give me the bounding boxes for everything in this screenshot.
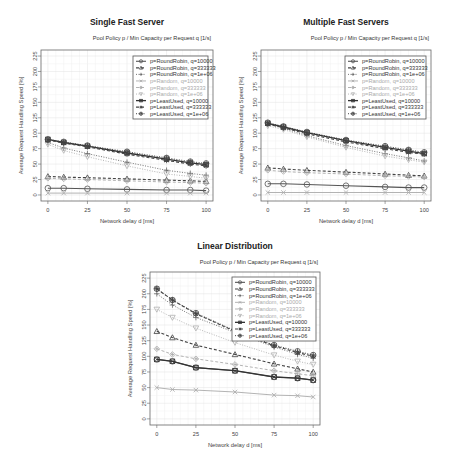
svg-text:p=RoundRobin, q=333333: p=RoundRobin, q=333333 — [249, 286, 315, 292]
svg-text:0: 0 — [46, 207, 49, 213]
svg-text:100: 100 — [141, 352, 147, 361]
svg-text:0: 0 — [155, 431, 158, 437]
x-axis: 0255075100Network delay d [ms] — [46, 201, 210, 224]
svg-text:p=Random, q=10000: p=Random, q=10000 — [249, 299, 302, 305]
svg-text:0: 0 — [32, 193, 38, 196]
chart-title: Linear Distribution — [197, 241, 273, 251]
svg-text:100: 100 — [420, 207, 429, 213]
svg-text:75: 75 — [382, 207, 388, 213]
y-axis: 0255075100125150175200225Average Request… — [18, 51, 41, 196]
svg-text:150: 150 — [141, 320, 147, 329]
svg-text:200: 200 — [32, 67, 38, 76]
svg-text:50: 50 — [32, 161, 38, 167]
svg-text:225: 225 — [32, 51, 38, 60]
svg-text:200: 200 — [141, 289, 147, 298]
svg-text:p=LeastUsed, q=333333: p=LeastUsed, q=333333 — [362, 104, 423, 110]
svg-text:150: 150 — [32, 98, 38, 107]
svg-text:p=LeastUsed, q=10000: p=LeastUsed, q=10000 — [362, 98, 420, 104]
svg-text:75: 75 — [141, 369, 147, 375]
svg-text:p=RoundRobin, q=1e+06: p=RoundRobin, q=1e+06 — [150, 71, 213, 77]
legend: p=RoundRobin, q=10000p=RoundRobin, q=333… — [133, 56, 216, 119]
x-axis-label: Network delay d [ms] — [208, 442, 263, 448]
svg-text:p=RoundRobin, q=333333: p=RoundRobin, q=333333 — [362, 65, 428, 71]
legend: p=RoundRobin, q=10000p=RoundRobin, q=333… — [345, 56, 428, 119]
svg-text:p=RoundRobin, q=10000: p=RoundRobin, q=10000 — [249, 279, 312, 285]
svg-text:25: 25 — [193, 431, 199, 437]
svg-text:p=LeastUsed, q=333333: p=LeastUsed, q=333333 — [249, 326, 310, 332]
x-axis: 0255075100Network delay d [ms] — [266, 201, 429, 224]
svg-text:100: 100 — [32, 129, 38, 138]
y-axis: 0255075100125150175200225Average Request… — [238, 51, 261, 196]
svg-text:175: 175 — [32, 82, 38, 91]
svg-text:100: 100 — [201, 207, 210, 213]
chart-panel-3: Linear DistributionPool Policy p / Min C… — [127, 241, 320, 448]
svg-text:75: 75 — [271, 431, 277, 437]
svg-text:175: 175 — [252, 82, 258, 91]
y-axis: 0255075100125150175200225Average Request… — [127, 273, 150, 420]
svg-text:25: 25 — [84, 207, 90, 213]
svg-text:75: 75 — [252, 146, 258, 152]
svg-text:25: 25 — [32, 176, 38, 182]
x-axis-label: Network delay d [ms] — [319, 218, 374, 224]
svg-text:125: 125 — [32, 113, 38, 122]
svg-text:75: 75 — [163, 207, 169, 213]
svg-text:p=RoundRobin, q=10000: p=RoundRobin, q=10000 — [362, 58, 425, 64]
svg-text:175: 175 — [141, 305, 147, 314]
svg-text:p=Random, q=333333: p=Random, q=333333 — [150, 85, 206, 91]
x-axis: 0255075100Network delay d [ms] — [155, 425, 318, 448]
svg-text:25: 25 — [252, 176, 258, 182]
svg-text:200: 200 — [252, 67, 258, 76]
svg-text:225: 225 — [141, 273, 147, 282]
svg-text:0: 0 — [141, 417, 147, 420]
svg-text:p=LeastUsed, q=333333: p=LeastUsed, q=333333 — [150, 104, 211, 110]
legend-title: Pool Policy p / Min Capacity per Request… — [311, 35, 430, 41]
svg-text:100: 100 — [309, 431, 318, 437]
svg-text:p=RoundRobin, q=10000: p=RoundRobin, q=10000 — [150, 58, 213, 64]
svg-text:50: 50 — [343, 207, 349, 213]
svg-text:p=RoundRobin, q=333333: p=RoundRobin, q=333333 — [150, 65, 216, 71]
chart-title: Multiple Fast Servers — [303, 17, 389, 27]
svg-text:p=Random, q=333333: p=Random, q=333333 — [362, 85, 418, 91]
svg-text:0: 0 — [252, 193, 258, 196]
svg-text:50: 50 — [124, 207, 130, 213]
svg-text:125: 125 — [252, 113, 258, 122]
svg-text:75: 75 — [32, 146, 38, 152]
svg-text:p=LeastUsed, q=1e+06: p=LeastUsed, q=1e+06 — [249, 333, 307, 339]
legend-title: Pool Policy p / Min Capacity per Request… — [200, 259, 319, 265]
y-axis-label: Average Request Handling Speed [%] — [18, 76, 24, 174]
svg-text:p=Random, q=1e+06: p=Random, q=1e+06 — [249, 313, 302, 319]
svg-text:225: 225 — [252, 51, 258, 60]
svg-text:50: 50 — [252, 161, 258, 167]
svg-text:p=Random, q=1e+06: p=Random, q=1e+06 — [362, 91, 415, 97]
svg-text:p=Random, q=1e+06: p=Random, q=1e+06 — [150, 91, 203, 97]
svg-text:125: 125 — [141, 336, 147, 345]
svg-text:p=LeastUsed, q=10000: p=LeastUsed, q=10000 — [150, 98, 208, 104]
svg-text:25: 25 — [141, 400, 147, 406]
chart-title: Single Fast Server — [90, 17, 165, 27]
svg-text:0: 0 — [266, 207, 269, 213]
svg-text:p=Random, q=10000: p=Random, q=10000 — [362, 78, 415, 84]
svg-text:p=LeastUsed, q=1e+06: p=LeastUsed, q=1e+06 — [150, 111, 208, 117]
legend: p=RoundRobin, q=10000p=RoundRobin, q=333… — [232, 277, 316, 341]
chart-panel-1: Single Fast ServerPool Policy p / Min Ca… — [18, 17, 216, 224]
x-axis-label: Network delay d [ms] — [100, 218, 155, 224]
svg-text:p=Random, q=10000: p=Random, q=10000 — [150, 78, 203, 84]
charts-canvas: Single Fast ServerPool Policy p / Min Ca… — [0, 0, 449, 466]
svg-text:p=RoundRobin, q=1e+06: p=RoundRobin, q=1e+06 — [249, 293, 312, 299]
y-axis-label: Average Request Handling Speed [%] — [127, 299, 133, 397]
svg-text:100: 100 — [252, 129, 258, 138]
svg-text:50: 50 — [141, 384, 147, 390]
svg-text:25: 25 — [304, 207, 310, 213]
chart-panel-2: Multiple Fast ServersPool Policy p / Min… — [238, 17, 431, 224]
svg-text:50: 50 — [232, 431, 238, 437]
svg-text:p=LeastUsed, q=1e+06: p=LeastUsed, q=1e+06 — [362, 111, 420, 117]
y-axis-label: Average Request Handling Speed [%] — [238, 76, 244, 174]
legend-title: Pool Policy p / Min Capacity per Request… — [93, 35, 212, 41]
svg-text:p=Random, q=333333: p=Random, q=333333 — [249, 306, 305, 312]
svg-text:p=RoundRobin, q=1e+06: p=RoundRobin, q=1e+06 — [362, 71, 425, 77]
svg-text:p=LeastUsed, q=10000: p=LeastUsed, q=10000 — [249, 319, 307, 325]
svg-text:150: 150 — [252, 98, 258, 107]
